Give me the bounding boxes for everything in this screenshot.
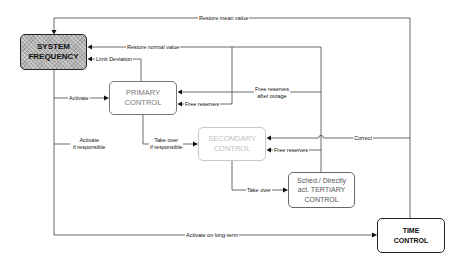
- arrowhead-icon: [267, 136, 272, 141]
- arrowhead-icon: [88, 45, 93, 50]
- node-secondary-control: SECONDARY CONTROL: [198, 127, 266, 161]
- frequency-control-diagram: SYSTEM FREQUENCY PRIMARY CONTROL SECONDA…: [0, 0, 463, 263]
- label-activate-if-responsible: Activate if responsible: [72, 137, 106, 151]
- arrowhead-icon: [178, 102, 183, 107]
- label-free-reserves-primary: Free reserves: [184, 101, 220, 108]
- arrowhead-icon: [88, 57, 93, 62]
- node-primary-control: PRIMARY CONTROL: [109, 81, 177, 115]
- label-restore-normal-value: Restore normal value: [126, 44, 180, 51]
- label-restore-mean-value: Restore mean value: [198, 15, 249, 22]
- label-limit-deviation: Limit Deviation: [95, 56, 133, 63]
- label-correct: Correct: [353, 135, 373, 142]
- node-time-control: TIME CONTROL: [377, 218, 445, 253]
- arrowhead-icon: [178, 90, 183, 95]
- label-free-reserves-after-outage: Free reserves after outage: [254, 86, 290, 100]
- label-activate-on-long-term: Activate on long-term: [185, 232, 239, 239]
- node-tertiary-control: Sched./ Directly act. TERTIARY CONTROL: [288, 172, 355, 208]
- label-free-reserves-secondary: Free reserves: [273, 147, 309, 154]
- node-system-frequency: SYSTEM FREQUENCY: [20, 34, 87, 70]
- label-take-over-if-responsible: Take over if responsible: [149, 137, 183, 151]
- label-activate: Activate: [68, 95, 90, 102]
- arrowhead-icon: [267, 148, 272, 153]
- label-take-over: Take over: [246, 187, 272, 194]
- edge-free-reserves-primary: [179, 47, 232, 104]
- edge-correct: [268, 136, 410, 139]
